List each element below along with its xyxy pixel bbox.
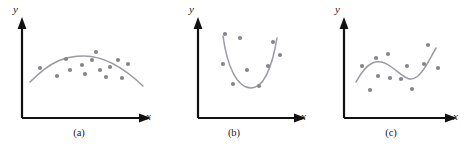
x-axis-label-a: x	[146, 111, 151, 122]
data-point	[68, 68, 72, 72]
fitted-curve-a	[30, 56, 143, 86]
x-axis-label-c: x	[453, 111, 458, 122]
y-axis-a	[18, 17, 27, 118]
caption-b: (b)	[155, 128, 313, 139]
data-point	[376, 74, 380, 78]
data-point	[426, 43, 430, 47]
data-point	[266, 64, 270, 68]
fitted-curve-b	[223, 36, 277, 88]
data-point	[83, 72, 87, 76]
data-point	[223, 32, 227, 36]
y-axis-b	[194, 17, 203, 118]
data-point	[257, 84, 261, 88]
data-point	[374, 56, 378, 60]
x-axis-label-b: x	[301, 111, 306, 122]
panel-c: y x (c)	[312, 0, 470, 149]
caption-a: (a)	[0, 128, 158, 139]
y-axis-label-c: y	[335, 4, 340, 15]
data-point	[271, 40, 275, 44]
data-point	[126, 62, 130, 66]
panel-b: y x (b)	[155, 0, 313, 149]
data-point	[386, 52, 390, 56]
data-point	[55, 74, 59, 78]
panel-a: y x (a)	[0, 0, 158, 149]
data-point	[245, 68, 249, 72]
x-axis-c	[344, 114, 457, 123]
data-point	[94, 50, 98, 54]
data-point	[221, 62, 225, 66]
figure-container: y x (a)	[0, 0, 475, 149]
panel-b-plot	[155, 0, 313, 130]
y-axis-label-b: y	[189, 4, 194, 15]
data-point	[90, 58, 94, 62]
data-point	[388, 76, 392, 80]
data-point	[410, 87, 414, 91]
data-point	[422, 62, 426, 66]
data-point	[231, 82, 235, 86]
caption-c: (c)	[312, 128, 470, 139]
data-point	[116, 58, 120, 62]
data-points-c	[360, 43, 440, 92]
x-axis-a	[22, 114, 151, 123]
data-point	[64, 57, 68, 61]
data-point	[238, 36, 242, 40]
data-point	[399, 77, 403, 81]
data-point	[278, 53, 282, 57]
data-point	[108, 65, 112, 69]
data-point	[360, 64, 364, 68]
data-point	[405, 64, 409, 68]
data-point	[104, 75, 108, 79]
panel-a-plot	[0, 0, 158, 130]
y-axis-c	[340, 17, 349, 118]
data-point	[120, 76, 124, 80]
data-point	[368, 88, 372, 92]
panel-c-plot	[312, 0, 475, 130]
x-axis-b	[198, 114, 306, 123]
data-point	[98, 68, 102, 72]
data-point	[436, 66, 440, 70]
data-point	[80, 63, 84, 67]
y-axis-label-a: y	[13, 4, 18, 15]
data-point	[38, 66, 42, 70]
